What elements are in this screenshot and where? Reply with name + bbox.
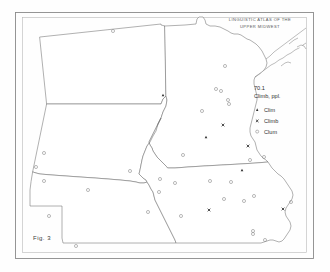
lake-superior-north-shore	[266, 28, 306, 59]
figure-caption: Fig. 3	[33, 235, 51, 241]
legend-label-clum: Clum	[264, 129, 277, 135]
atlas-title-line1: LINGUISTIC ATLAS OF THE	[229, 17, 291, 22]
state-north-dakota	[40, 24, 166, 104]
figure-root: LINGUISTIC ATLAS OF THE UPPER MIDWEST 70…	[0, 0, 330, 272]
map-symbol-clum	[47, 214, 50, 217]
legend-item-word: Climb, ppl.	[254, 93, 281, 99]
circle-icon	[256, 130, 259, 133]
legend-item-number: 70.1	[254, 85, 265, 91]
linguistic-atlas-map: LINGUISTIC ATLAS OF THE UPPER MIDWEST 70…	[0, 0, 330, 272]
lake-superior-island-isle-royale	[289, 38, 298, 44]
map-symbol-clum	[262, 155, 265, 158]
legend-entry-climb: Climb	[256, 118, 278, 124]
legend-label-clim: Clim	[264, 107, 276, 113]
legend-entry-clim: Clim	[256, 107, 276, 113]
triangle-icon	[256, 108, 258, 111]
atlas-title-line2: UPPER MIDWEST	[240, 24, 280, 29]
x-icon	[256, 120, 259, 123]
legend-entry-clum: Clum	[256, 129, 278, 135]
legend-label-climb: Climb	[264, 118, 278, 124]
map-legend: 70.1 Climb, ppl. Clim Climb Clum	[254, 85, 281, 135]
map-symbol-clum	[74, 244, 77, 247]
lake-superior-inlet-detail	[281, 62, 291, 66]
state-minnesota	[149, 17, 268, 168]
